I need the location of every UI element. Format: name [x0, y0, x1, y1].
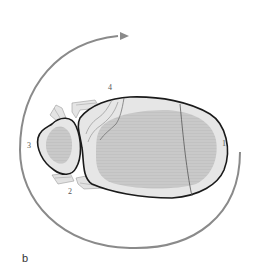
diagram-figure [0, 0, 256, 274]
label-3: 3 [27, 142, 31, 150]
large-body [78, 97, 227, 198]
label-2: 2 [68, 188, 72, 196]
arrowhead-icon [120, 32, 129, 40]
label-4: 4 [108, 84, 112, 92]
label-1: 1 [222, 140, 226, 148]
small-body [38, 118, 81, 174]
panel-label: b [22, 253, 28, 264]
